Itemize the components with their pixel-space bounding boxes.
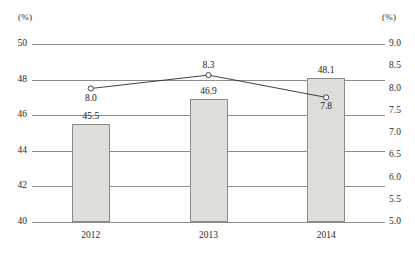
line-value-label: 8.0 (71, 94, 111, 104)
left-axis-tick: 44 (5, 146, 27, 156)
line-marker (88, 86, 93, 91)
right-axis-tick: 7.0 (389, 128, 415, 138)
left-axis-tick: 50 (5, 39, 27, 49)
right-axis-tick: 9.0 (389, 39, 415, 49)
category-label: 2012 (66, 231, 116, 241)
combo-bar-line-chart: (%) (%) 404244464850 5.05.56.06.57.07.58… (0, 0, 415, 258)
right-axis-unit-label: (%) (382, 12, 396, 22)
left-axis-tick: 40 (5, 217, 27, 227)
right-axis-tick: 5.5 (389, 195, 415, 205)
axis-baseline (32, 222, 385, 223)
category-label: 2013 (184, 231, 234, 241)
line-value-label: 8.3 (189, 61, 229, 71)
left-axis-unit-label: (%) (18, 12, 32, 22)
line-path (91, 75, 326, 97)
right-axis-tick: 6.5 (389, 150, 415, 160)
right-axis-tick: 5.0 (389, 217, 415, 227)
category-label: 2014 (301, 231, 351, 241)
right-axis-tick: 8.0 (389, 84, 415, 94)
left-axis-tick: 46 (5, 110, 27, 120)
line-value-label: 7.8 (306, 102, 346, 112)
right-axis-tick: 7.5 (389, 106, 415, 116)
right-axis-tick: 8.5 (389, 61, 415, 71)
plot-area: 45.546.948.1 8.08.37.8 (32, 44, 385, 222)
line-marker (324, 95, 329, 100)
line-marker (206, 73, 211, 78)
left-axis-tick: 42 (5, 181, 27, 191)
left-axis-tick: 48 (5, 75, 27, 85)
line-series (32, 44, 385, 222)
right-axis-tick: 6.0 (389, 173, 415, 183)
